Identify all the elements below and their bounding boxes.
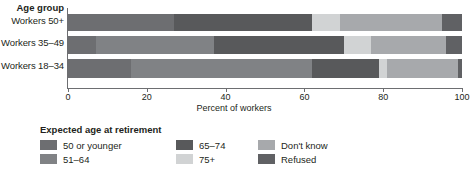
legend-swatch bbox=[40, 140, 57, 150]
bar-segment bbox=[312, 59, 379, 78]
legend-title: Expected age at retirement bbox=[40, 124, 336, 135]
y-axis-label: Workers 18–34 bbox=[1, 60, 64, 71]
bar-segment bbox=[340, 14, 442, 31]
bar-segment bbox=[96, 36, 214, 54]
bar-segment bbox=[214, 36, 344, 54]
legend-swatch bbox=[40, 154, 57, 164]
bar-segment bbox=[344, 36, 372, 54]
legend-label: 65–74 bbox=[199, 140, 225, 151]
legend-item[interactable]: Don't know bbox=[258, 138, 328, 152]
y-axis-line bbox=[67, 8, 68, 89]
x-axis-tick-label: 0 bbox=[48, 92, 88, 102]
bar-segment bbox=[312, 14, 340, 31]
x-axis-tick-label: 40 bbox=[206, 92, 246, 102]
bar-segment bbox=[68, 59, 131, 78]
bar-segment bbox=[387, 59, 458, 78]
x-axis-tick-label: 100 bbox=[442, 92, 474, 102]
legend-label: 50 or younger bbox=[63, 140, 122, 151]
y-axis-label: Workers 35–49 bbox=[1, 37, 64, 48]
bar-workers-18-34 bbox=[68, 59, 462, 78]
bar-segment bbox=[458, 59, 462, 78]
x-axis-tick-label: 80 bbox=[363, 92, 403, 102]
legend-label: Don't know bbox=[281, 140, 328, 151]
legend-row: 51–6475+Refused bbox=[36, 152, 336, 166]
legend: Expected age at retirement 50 or younger… bbox=[36, 124, 336, 174]
bar-segment bbox=[174, 14, 312, 31]
legend-label: 51–64 bbox=[63, 154, 89, 165]
bar-workers-35-49 bbox=[68, 36, 462, 54]
legend-item[interactable]: 75+ bbox=[176, 152, 215, 166]
bar-segment bbox=[371, 36, 446, 54]
bar-workers-50 bbox=[68, 14, 462, 31]
legend-item[interactable]: Refused bbox=[258, 152, 316, 166]
bar-segment bbox=[131, 59, 312, 78]
x-axis-tick-label: 60 bbox=[284, 92, 324, 102]
bar-segment bbox=[442, 14, 462, 31]
y-axis-tick-labels: Workers 50+Workers 35–49Workers 18–34 bbox=[0, 0, 64, 90]
legend-item[interactable]: 51–64 bbox=[40, 152, 89, 166]
plot-area bbox=[68, 8, 462, 88]
bar-segment bbox=[446, 36, 462, 54]
y-axis-label: Workers 50+ bbox=[11, 15, 64, 26]
x-axis-line bbox=[68, 88, 463, 89]
legend-row: 50 or younger65–74Don't know bbox=[36, 138, 336, 152]
bar-segment bbox=[68, 36, 96, 54]
legend-item[interactable]: 65–74 bbox=[176, 138, 225, 152]
legend-swatch bbox=[258, 154, 275, 164]
legend-label: 75+ bbox=[199, 154, 215, 165]
legend-swatch bbox=[258, 140, 275, 150]
legend-swatch bbox=[176, 140, 193, 150]
legend-label: Refused bbox=[281, 154, 316, 165]
bar-segment bbox=[68, 14, 174, 31]
x-axis-title: Percent of workers bbox=[0, 103, 468, 113]
x-axis-tick-label: 20 bbox=[127, 92, 167, 102]
legend-swatch bbox=[176, 154, 193, 164]
legend-item[interactable]: 50 or younger bbox=[40, 138, 122, 152]
bar-segment bbox=[379, 59, 387, 78]
